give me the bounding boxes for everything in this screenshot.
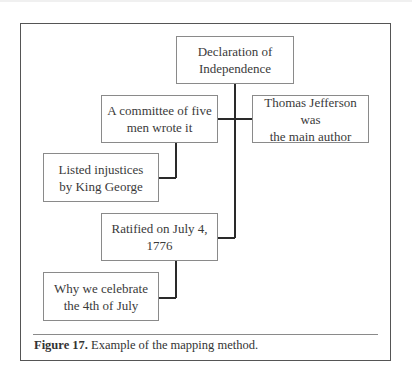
figure-caption: Figure 17. Example of the mapping method… bbox=[34, 338, 258, 353]
node-line: by King George bbox=[59, 178, 144, 195]
page-top-rule bbox=[0, 0, 412, 2]
node-line: Declaration of bbox=[198, 43, 273, 60]
node-committee: A committee of five men wrote it bbox=[101, 95, 218, 143]
connector-root-ratified bbox=[217, 237, 235, 239]
node-line: Ratified on July 4, 1776 bbox=[106, 220, 213, 254]
caption-text: Example of the mapping method. bbox=[88, 338, 258, 352]
node-line: Why we celebrate bbox=[54, 280, 148, 297]
node-line: the main author bbox=[257, 128, 364, 145]
connector-root-trunk bbox=[234, 83, 236, 238]
node-line: men wrote it bbox=[107, 119, 211, 136]
connector-to-injustices bbox=[158, 177, 176, 179]
node-declaration: Declaration of Independence bbox=[176, 36, 294, 84]
node-line: Thomas Jefferson was bbox=[257, 94, 364, 128]
node-injustices: Listed injustices by King George bbox=[43, 153, 159, 202]
node-line: Listed injustices bbox=[59, 161, 144, 178]
node-celebrate: Why we celebrate the 4th of July bbox=[43, 272, 159, 321]
connector-ratified-down bbox=[175, 260, 177, 298]
node-line: Independence bbox=[198, 60, 273, 77]
caption-separator bbox=[33, 334, 378, 335]
caption-label: Figure 17. bbox=[34, 338, 88, 352]
connector-committee-down bbox=[175, 142, 177, 178]
node-line: A committee of five bbox=[107, 102, 211, 119]
node-line: the 4th of July bbox=[54, 297, 148, 314]
node-jefferson: Thomas Jefferson was the main author bbox=[252, 95, 369, 143]
connector-committee-jefferson bbox=[217, 118, 252, 120]
node-ratified: Ratified on July 4, 1776 bbox=[101, 213, 218, 261]
connector-to-celebrate bbox=[158, 297, 176, 299]
